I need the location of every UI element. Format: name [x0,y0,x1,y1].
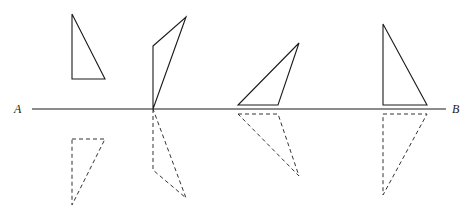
triangle-1-original [72,14,105,79]
reflection-diagram: A B [0,0,472,213]
triangle-2-reflection [153,109,186,198]
triangle-4-original [383,24,427,105]
triangle-3-original [238,43,299,105]
label-a: A [13,102,22,116]
label-b: B [452,102,460,116]
triangle-4-reflection [383,114,427,195]
triangle-2-original [153,17,186,109]
triangle-3-reflection [238,114,299,176]
triangle-1-reflection [72,139,105,205]
